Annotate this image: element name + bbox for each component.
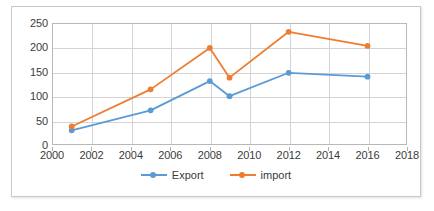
- x-tick-label: 2012: [277, 149, 301, 161]
- data-point-marker[interactable]: [227, 75, 233, 81]
- legend-label: Export: [172, 169, 204, 181]
- y-tick-label: 250: [14, 17, 48, 29]
- data-point-marker[interactable]: [286, 70, 292, 76]
- series-layer: [52, 23, 407, 145]
- plot-wrapper: 050100150200250 200020022004200620082010…: [12, 7, 420, 196]
- x-axis: 2000200220042006200820102012201420162018: [52, 147, 407, 167]
- legend-swatch-icon: [141, 170, 167, 180]
- x-tick-label: 2004: [119, 149, 143, 161]
- legend-label: import: [261, 169, 292, 181]
- data-point-marker[interactable]: [69, 124, 75, 130]
- data-point-marker[interactable]: [286, 29, 292, 35]
- x-tick-label: 2008: [198, 149, 222, 161]
- data-point-marker[interactable]: [227, 93, 233, 99]
- y-tick-label: 200: [14, 41, 48, 53]
- x-tick-label: 2018: [395, 149, 419, 161]
- x-tick-label: 2000: [40, 149, 64, 161]
- x-tick-label: 2016: [356, 149, 380, 161]
- data-point-marker[interactable]: [148, 107, 154, 113]
- series-line-import: [72, 32, 368, 127]
- data-point-marker[interactable]: [207, 45, 213, 51]
- data-point-marker[interactable]: [365, 43, 371, 49]
- series-line-export: [72, 73, 368, 131]
- legend-item-export[interactable]: Export: [141, 169, 204, 181]
- y-tick-label: 100: [14, 90, 48, 102]
- chart-container: 050100150200250 200020022004200620082010…: [11, 6, 421, 197]
- data-point-marker[interactable]: [148, 86, 154, 92]
- data-point-marker[interactable]: [207, 78, 213, 84]
- x-tick-label: 2010: [237, 149, 261, 161]
- chart-legend: Exportimport: [12, 169, 420, 181]
- y-axis: 050100150200250: [12, 23, 48, 145]
- x-tick-label: 2006: [158, 149, 182, 161]
- data-point-marker[interactable]: [365, 74, 371, 80]
- y-tick-label: 150: [14, 66, 48, 78]
- legend-swatch-icon: [230, 170, 256, 180]
- y-tick-label: 50: [14, 115, 48, 127]
- legend-item-import[interactable]: import: [230, 169, 292, 181]
- x-tick-label: 2002: [79, 149, 103, 161]
- x-tick-label: 2014: [316, 149, 340, 161]
